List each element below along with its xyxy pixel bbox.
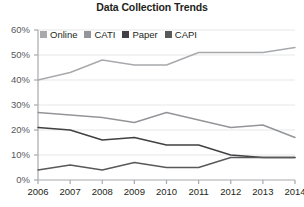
legend-label: Paper	[132, 30, 157, 39]
chart-container: Data Collection Trends OnlineCATIPaperCA…	[0, 0, 304, 207]
legend-item-cati[interactable]: CATI	[84, 30, 115, 39]
y-axis-tick-label: 10%	[0, 149, 30, 160]
legend-label: CAPI	[175, 30, 197, 39]
series-line-online	[38, 48, 295, 81]
y-axis-tick-label: 50%	[0, 49, 30, 60]
legend-label: Online	[50, 30, 77, 39]
x-axis-tick-label: 2014	[278, 186, 304, 197]
y-axis-tick-label: 0%	[0, 174, 30, 185]
legend-item-paper[interactable]: Paper	[122, 30, 157, 39]
x-axis-tick-label: 2010	[150, 186, 184, 197]
legend-item-capi[interactable]: CAPI	[165, 30, 197, 39]
y-axis-tick-label: 60%	[0, 24, 30, 35]
legend-label: CATI	[94, 30, 115, 39]
x-axis-tick-label: 2007	[53, 186, 87, 197]
chart-legend: OnlineCATIPaperCAPI	[40, 30, 197, 39]
x-axis-tick-label: 2006	[21, 186, 55, 197]
x-axis-tick-label: 2009	[117, 186, 151, 197]
legend-swatch-icon	[165, 31, 172, 38]
x-axis-tick-label: 2012	[214, 186, 248, 197]
x-axis-tick-label: 2011	[182, 186, 216, 197]
y-axis-tick-label: 30%	[0, 99, 30, 110]
series-line-capi	[38, 158, 295, 171]
y-axis-tick-label: 40%	[0, 74, 30, 85]
series-line-paper	[38, 128, 295, 158]
legend-swatch-icon	[40, 31, 47, 38]
x-axis-tick-label: 2013	[246, 186, 280, 197]
legend-swatch-icon	[122, 31, 129, 38]
legend-swatch-icon	[84, 31, 91, 38]
x-axis-tick-label: 2008	[85, 186, 119, 197]
series-line-cati	[38, 113, 295, 138]
legend-item-online[interactable]: Online	[40, 30, 77, 39]
y-axis-tick-label: 20%	[0, 124, 30, 135]
